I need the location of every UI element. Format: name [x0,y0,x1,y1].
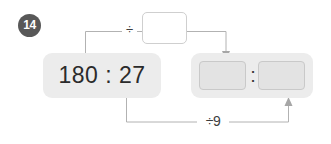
exercise-number-badge: 14 [18,14,41,37]
divide-by-nine-label: ÷9 [197,113,229,130]
given-expression-text: 180 : 27 [43,53,161,98]
arrowhead-up-icon [285,97,293,106]
divisor-input[interactable] [142,12,187,44]
answer-slot-left[interactable] [199,61,246,90]
answer-slot-right[interactable] [258,61,305,90]
divide-operator-top-label: ÷ [122,22,137,37]
connector-divisor-to-quotient [187,32,226,55]
exercise-canvas: 14 180 : 27 : ÷ ÷9 [0,0,331,144]
answer-ratio-colon: : [248,61,258,90]
